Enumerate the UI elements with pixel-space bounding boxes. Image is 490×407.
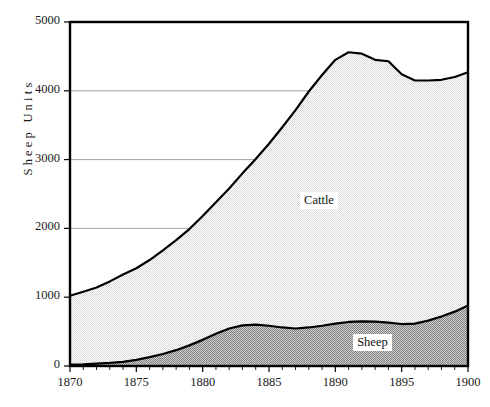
series-label-sheep: Sheep <box>353 334 392 351</box>
area-chart-svg <box>0 0 490 407</box>
x-tick-label: 1870 <box>40 375 100 390</box>
chart-container: Sheep Units 010002000300040005000 187018… <box>0 0 490 407</box>
y-tick-label: 5000 <box>16 13 60 28</box>
y-tick-label: 1000 <box>16 288 60 303</box>
x-tick-label: 1885 <box>239 375 299 390</box>
area-cattle <box>70 52 468 364</box>
x-tick-label: 1890 <box>305 375 365 390</box>
y-tick-label: 2000 <box>16 219 60 234</box>
series-label-cattle: Cattle <box>300 192 338 209</box>
y-tick-label: 0 <box>16 357 60 372</box>
y-axis-title: Sheep Units <box>21 48 36 208</box>
x-tick-label: 1900 <box>438 375 490 390</box>
y-tick-label: 4000 <box>16 82 60 97</box>
x-tick-label: 1895 <box>372 375 432 390</box>
x-tick-label: 1880 <box>173 375 233 390</box>
x-tick-label: 1875 <box>106 375 166 390</box>
y-tick-label: 3000 <box>16 151 60 166</box>
